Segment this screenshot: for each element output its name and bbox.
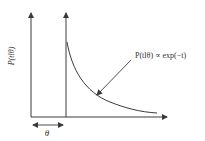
theta-label: θ	[45, 128, 50, 138]
curve-annotation-label: P(tlθ) ∝ exp(−t)	[135, 51, 186, 60]
diagram-canvas: P(tlθ) P(tlθ) ∝ exp(−t) θ	[0, 0, 205, 141]
annotation-arrow	[97, 60, 131, 95]
y-axis-label: P(tlθ)	[7, 46, 16, 66]
